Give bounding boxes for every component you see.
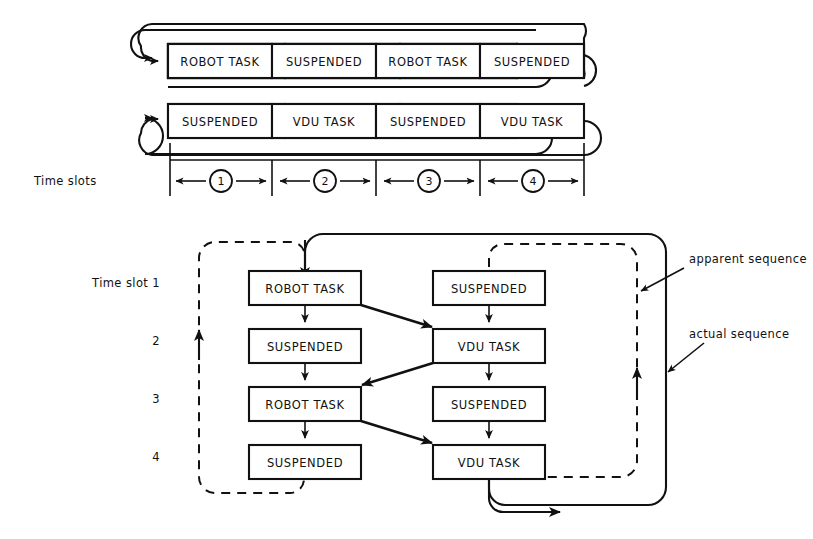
right-box-label-1: SUSPENDED [451,282,527,296]
left-box-label-3: ROBOT TASK [265,398,344,412]
left-box-label-2: SUSPENDED [267,340,343,354]
time-slot-number: 4 [530,175,537,188]
timeline-r1-c1: ROBOT TASK [180,55,259,69]
time-slot-number: 2 [322,175,329,188]
time-slots-label: Time slots [33,174,97,188]
left-box-label-1: ROBOT TASK [265,282,344,296]
right-box-label-2: VDU TASK [458,340,520,354]
cross-arrow-robot3-to-vdu4 [361,421,432,443]
timeline-r2-c3: SUSPENDED [390,115,466,129]
sequence-row-label-4: 4 [152,450,160,464]
sequence-row-label-1: Time slot 1 [91,276,160,290]
timeline-r2-c4: VDU TASK [501,115,563,129]
figure-canvas: ROBOT TASK SUSPENDED ROBOT TASK SUSPENDE… [0,0,813,539]
timeline-row2-full: SUSPENDED VDU TASK SUSPENDED VDU TASK [168,104,584,138]
cross-arrow-vdu2-to-robot3 [362,363,433,385]
timeline-r2-c1: SUSPENDED [182,115,258,129]
time-slot-dimension-row: 1 2 3 4 [176,170,578,192]
timeline-baseline [170,143,584,196]
timeline-r1-c3: ROBOT TASK [388,55,467,69]
sequence-row-label-2: 2 [152,334,160,348]
time-slot-number: 3 [426,175,433,188]
apparent-sequence-label: apparent sequence [689,252,807,266]
timeline-row1-full: ROBOT TASK SUSPENDED ROBOT TASK SUSPENDE… [168,44,584,78]
sequence-row-label-3: 3 [152,392,160,406]
vdu-timeline-loop-left [145,118,168,154]
right-box-label-4: VDU TASK [458,456,520,470]
right-box-label-3: SUSPENDED [451,398,527,412]
cross-arrow-robot1-to-vdu2 [361,305,432,327]
time-slot-number: 1 [218,175,225,188]
timeline-r2-c2: VDU TASK [293,115,355,129]
left-box-label-4: SUSPENDED [267,456,343,470]
actual-sequence-leader [668,343,704,372]
apparent-sequence-leader [641,268,684,291]
timeline-r1-c4: SUSPENDED [494,55,570,69]
timeline-r1-c2: SUSPENDED [286,55,362,69]
actual-sequence-label: actual sequence [689,327,789,341]
